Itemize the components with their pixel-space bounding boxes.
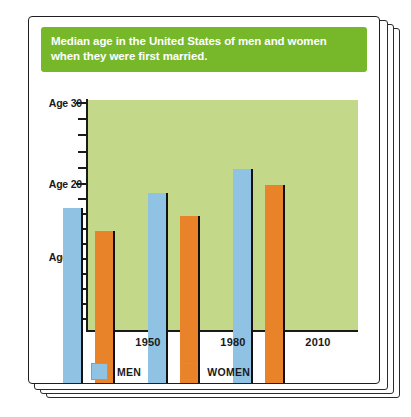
y-tick-24	[78, 151, 87, 153]
legend-swatch-women-icon	[181, 363, 198, 380]
x-axis-label-1980: 1980	[220, 336, 245, 348]
bar-women-1950	[95, 231, 115, 384]
x-axis-label-1950: 1950	[135, 336, 160, 348]
chart-title-banner: Median age in the United States of men a…	[41, 27, 367, 72]
bar-chart: Age 30 Age 20 Age 10 1950 1980 2010 MEN …	[29, 77, 380, 384]
y-tick-22	[78, 167, 87, 169]
plot-background	[88, 100, 358, 330]
chart-title: Median age in the United States of men a…	[51, 34, 357, 64]
x-axis-label-2010: 2010	[305, 336, 330, 348]
legend-swatch-men-icon	[91, 363, 108, 380]
bar-women-1980	[180, 216, 200, 384]
legend-item-women: WOMEN	[181, 363, 250, 380]
bar-men-1950	[63, 208, 83, 384]
bar-men-1980	[148, 193, 168, 384]
legend-label-men: MEN	[117, 366, 141, 378]
y-axis-label-20: Age 20	[28, 178, 82, 190]
y-tick-28	[78, 118, 87, 120]
y-axis-label-30: Age 30	[28, 97, 82, 109]
y-tick-26	[78, 134, 87, 136]
y-tick-18	[78, 198, 87, 200]
legend-item-men: MEN	[91, 363, 141, 380]
bar-women-2010	[265, 185, 285, 384]
legend-label-women: WOMEN	[207, 366, 250, 378]
x-axis-line	[86, 330, 358, 332]
chart-legend: MEN WOMEN	[29, 363, 380, 380]
chart-card: Median age in the United States of men a…	[28, 16, 380, 384]
bar-men-2010	[233, 169, 253, 384]
